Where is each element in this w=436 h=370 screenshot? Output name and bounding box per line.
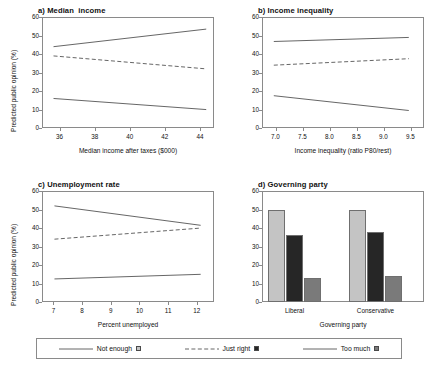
- y-tick-mark: [259, 247, 262, 248]
- panel-c-title: c) Unemployment rate: [38, 180, 120, 189]
- panel-a-ylabel: Predicted public opinion (%): [10, 50, 17, 132]
- y-tick-mark: [259, 17, 262, 18]
- x-tick-label: 11: [156, 307, 180, 314]
- series-line: [54, 274, 200, 279]
- y-tick-mark: [39, 36, 42, 37]
- panel-c-ylabel: Predicted public opinion (%): [10, 224, 17, 306]
- y-tick-mark: [39, 17, 42, 18]
- x-tick-mark: [53, 302, 54, 305]
- series-line: [274, 37, 409, 41]
- panel-a-plot-area: [42, 17, 214, 128]
- series-line: [54, 29, 207, 47]
- y-tick-mark: [39, 110, 42, 111]
- legend-line-sample: [185, 346, 219, 352]
- bar: [367, 232, 384, 302]
- y-tick-mark: [259, 128, 262, 129]
- y-tick-mark: [39, 128, 42, 129]
- y-tick-mark: [259, 265, 262, 266]
- panel-c-plot-area: [42, 191, 214, 302]
- y-tick-mark: [39, 191, 42, 192]
- y-tick-label: 20: [246, 261, 259, 268]
- x-tick-mark: [384, 128, 385, 131]
- y-tick-label: 50: [246, 32, 259, 39]
- legend-swatch: [254, 346, 259, 351]
- y-tick-label: 40: [26, 224, 39, 231]
- y-tick-mark: [39, 228, 42, 229]
- y-tick-label: 30: [246, 69, 259, 76]
- y-tick-label: 20: [26, 87, 39, 94]
- x-tick-mark: [303, 128, 304, 131]
- legend-swatch: [374, 346, 379, 351]
- x-tick-label: 7.5: [291, 133, 315, 140]
- y-tick-mark: [259, 54, 262, 55]
- x-tick-mark: [139, 302, 140, 305]
- y-tick-label: 20: [246, 87, 259, 94]
- x-tick-mark: [130, 128, 131, 131]
- panel-b-title: b) Income inequality: [258, 6, 333, 15]
- series-line: [274, 96, 409, 111]
- y-tick-mark: [39, 247, 42, 248]
- y-tick-label: 50: [246, 206, 259, 213]
- y-tick-mark: [39, 54, 42, 55]
- y-tick-label: 20: [26, 261, 39, 268]
- y-tick-mark: [259, 91, 262, 92]
- category-label: Conservative: [346, 307, 406, 314]
- y-tick-label: 60: [26, 13, 39, 20]
- legend-label: Just right: [223, 345, 251, 352]
- x-tick-mark: [330, 128, 331, 131]
- y-tick-mark: [259, 110, 262, 111]
- y-tick-mark: [39, 91, 42, 92]
- x-tick-mark: [60, 128, 61, 131]
- y-tick-mark: [39, 265, 42, 266]
- panel-b-plot-area: [262, 17, 424, 128]
- panel-d-xlabel: Governing party: [262, 321, 424, 328]
- series-line: [54, 56, 207, 69]
- legend-item: Too much: [303, 345, 379, 352]
- panel-d-title: d) Governing party: [258, 180, 328, 189]
- x-tick-mark: [168, 302, 169, 305]
- x-tick-mark: [200, 128, 201, 131]
- y-tick-mark: [259, 302, 262, 303]
- x-tick-label: 40: [118, 133, 142, 140]
- x-tick-mark: [276, 128, 277, 131]
- x-tick-label: 44: [188, 133, 212, 140]
- panel-b-xlabel: Income inequality (ratio P80/rest): [262, 147, 424, 154]
- x-tick-label: 8.5: [345, 133, 369, 140]
- y-tick-label: 0: [26, 124, 39, 131]
- bar: [385, 276, 402, 302]
- y-tick-label: 0: [246, 298, 259, 305]
- series-line: [54, 98, 207, 109]
- x-tick-label: 7.0: [264, 133, 288, 140]
- y-tick-mark: [259, 36, 262, 37]
- y-tick-mark: [259, 210, 262, 211]
- panel-a-lines: [43, 18, 215, 129]
- panel-c-xlabel: Percent unemployed: [42, 321, 214, 328]
- x-tick-mark: [111, 302, 112, 305]
- x-tick-label: 8: [70, 307, 94, 314]
- legend-line-sample: [59, 346, 93, 352]
- y-tick-mark: [39, 73, 42, 74]
- x-tick-label: 42: [153, 133, 177, 140]
- x-tick-label: 8.0: [318, 133, 342, 140]
- y-tick-label: 60: [246, 187, 259, 194]
- y-tick-mark: [259, 73, 262, 74]
- x-tick-label: 9.0: [372, 133, 396, 140]
- x-tick-label: 36: [48, 133, 72, 140]
- y-tick-label: 30: [246, 243, 259, 250]
- category-label: Liberal: [265, 307, 325, 314]
- y-tick-label: 0: [26, 298, 39, 305]
- y-tick-label: 30: [26, 69, 39, 76]
- x-tick-mark: [95, 128, 96, 131]
- panel-a-xlabel: Median income after taxes ($000): [42, 147, 214, 154]
- bar: [268, 210, 285, 302]
- panel-b-lines: [263, 18, 425, 129]
- x-tick-mark: [411, 128, 412, 131]
- y-tick-mark: [259, 228, 262, 229]
- y-tick-label: 40: [246, 50, 259, 57]
- series-line: [274, 59, 409, 65]
- series-line: [54, 228, 200, 239]
- y-tick-label: 40: [246, 224, 259, 231]
- x-tick-mark: [197, 302, 198, 305]
- series-line: [54, 206, 200, 225]
- panel-c-lines: [43, 192, 215, 303]
